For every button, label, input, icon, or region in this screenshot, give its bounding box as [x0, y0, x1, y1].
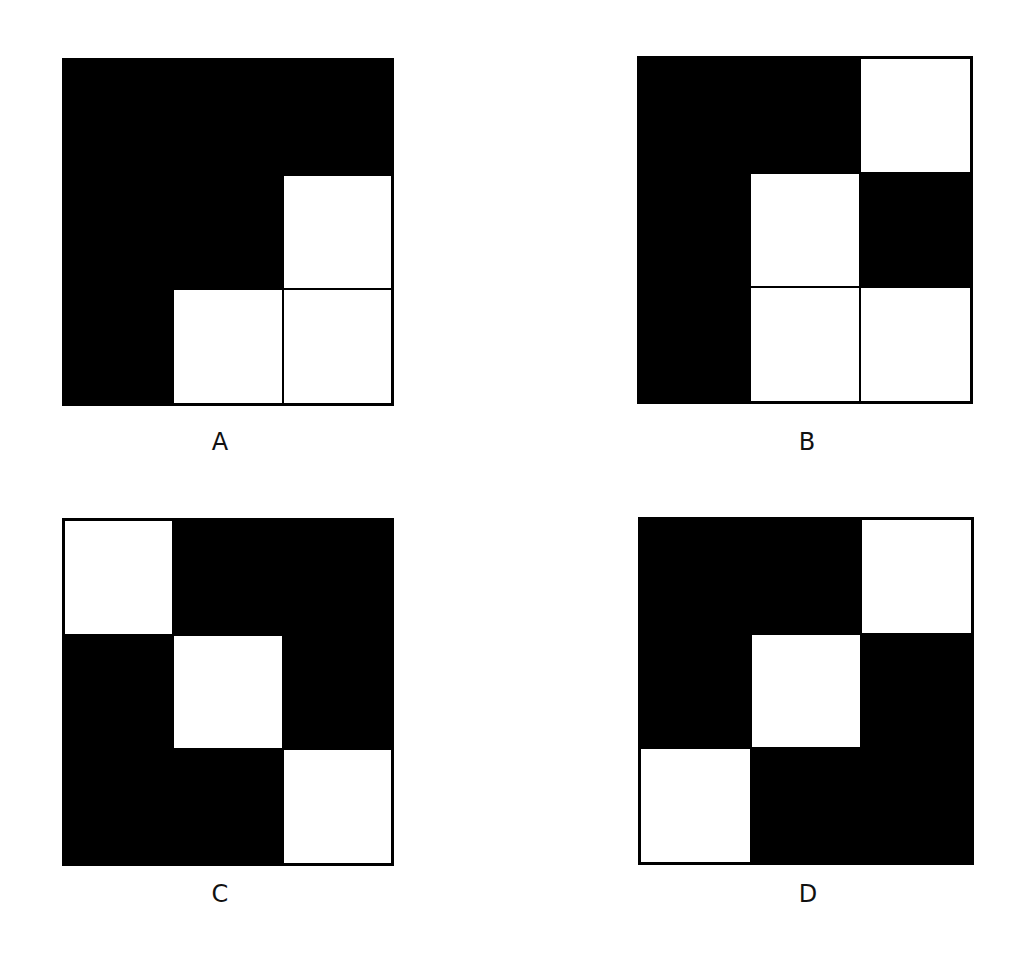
empty-cell: [751, 634, 862, 749]
filled-cell: [283, 635, 392, 750]
filled-cell: [64, 60, 173, 175]
filled-cell: [639, 173, 750, 288]
label-c: C: [200, 880, 240, 908]
empty-cell: [861, 519, 972, 634]
empty-cell: [860, 58, 971, 173]
empty-cell: [64, 520, 173, 635]
empty-cell: [173, 635, 282, 750]
filled-cell: [639, 58, 750, 173]
filled-cell: [64, 175, 173, 290]
filled-cell: [173, 520, 282, 635]
filled-cell: [64, 635, 173, 750]
filled-cell: [640, 634, 751, 749]
filled-cell: [861, 634, 972, 749]
label-b: B: [787, 428, 827, 456]
empty-cell: [173, 289, 282, 404]
filled-cell: [283, 60, 392, 175]
empty-cell: [283, 289, 392, 404]
filled-cell: [64, 749, 173, 864]
label-d: D: [788, 880, 828, 908]
filled-cell: [639, 287, 750, 402]
filled-cell: [751, 519, 862, 634]
filled-cell: [640, 519, 751, 634]
grid-c: [62, 518, 394, 866]
filled-cell: [173, 175, 282, 290]
empty-cell: [283, 749, 392, 864]
filled-cell: [283, 520, 392, 635]
empty-cell: [750, 173, 861, 288]
filled-cell: [750, 58, 861, 173]
filled-cell: [64, 289, 173, 404]
label-a: A: [200, 428, 240, 456]
empty-cell: [860, 287, 971, 402]
filled-cell: [860, 173, 971, 288]
filled-cell: [861, 748, 972, 863]
empty-cell: [750, 287, 861, 402]
filled-cell: [173, 60, 282, 175]
grid-a: [62, 58, 394, 406]
empty-cell: [283, 175, 392, 290]
filled-cell: [751, 748, 862, 863]
grid-b: [637, 56, 973, 404]
filled-cell: [173, 749, 282, 864]
empty-cell: [640, 748, 751, 863]
grid-d: [638, 517, 974, 865]
